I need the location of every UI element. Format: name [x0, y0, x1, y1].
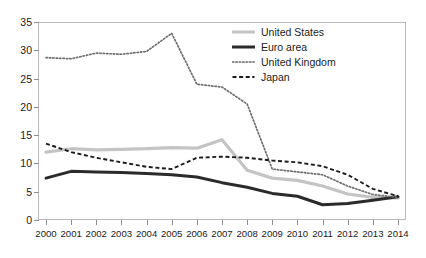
- legend-item-euro-area[interactable]: Euro area: [232, 39, 400, 54]
- series-line-euro-area: [46, 171, 398, 204]
- x-tick-mark: [373, 220, 374, 225]
- series-line-japan: [46, 144, 398, 197]
- chart-legend: United StatesEuro areaUnited KingdomJapa…: [232, 24, 400, 84]
- x-tick-label: 2014: [381, 228, 415, 239]
- x-tick-mark: [247, 220, 248, 225]
- y-tick-mark: [34, 220, 39, 221]
- y-tick-label: 0: [2, 215, 32, 225]
- x-tick-mark: [121, 220, 122, 225]
- legend-item-japan[interactable]: Japan: [232, 69, 400, 84]
- legend-swatch-icon: [232, 72, 255, 82]
- legend-item-united-states[interactable]: United States: [232, 24, 400, 39]
- x-tick-mark: [147, 220, 148, 225]
- y-tick-label: 30: [2, 45, 32, 55]
- y-tick-label: 10: [2, 158, 32, 168]
- line-chart: 05101520253035 2000200120022003200420052…: [0, 0, 426, 258]
- legend-swatch-icon: [232, 27, 255, 37]
- legend-label: United States: [261, 26, 324, 38]
- legend-swatch-icon: [232, 42, 255, 52]
- y-tick-label: 15: [2, 130, 32, 140]
- y-tick-label: 25: [2, 74, 32, 84]
- x-tick-mark: [71, 220, 72, 225]
- y-tick-label: 5: [2, 187, 32, 197]
- legend-label: Japan: [261, 71, 290, 83]
- series-line-united-states: [46, 140, 398, 198]
- legend-label: United Kingdom: [261, 56, 336, 68]
- legend-swatch-icon: [232, 57, 255, 67]
- x-tick-mark: [323, 220, 324, 225]
- x-tick-mark: [297, 220, 298, 225]
- x-tick-mark: [272, 220, 273, 225]
- legend-item-united-kingdom[interactable]: United Kingdom: [232, 54, 400, 69]
- x-tick-mark: [46, 220, 47, 225]
- x-tick-mark: [96, 220, 97, 225]
- y-tick-label: 20: [2, 102, 32, 112]
- y-tick-label: 35: [2, 17, 32, 27]
- x-tick-mark: [348, 220, 349, 225]
- x-tick-mark: [172, 220, 173, 225]
- x-tick-mark: [222, 220, 223, 225]
- legend-label: Euro area: [261, 41, 307, 53]
- x-tick-mark: [197, 220, 198, 225]
- x-tick-mark: [398, 220, 399, 225]
